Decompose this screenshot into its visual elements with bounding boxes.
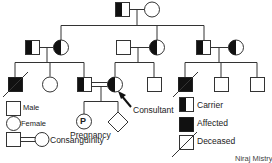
legend-male-label: Male <box>23 104 39 112</box>
gen3-male <box>251 78 265 92</box>
legend-consanguinity-female-icon <box>35 133 49 147</box>
gen2-middle-couple <box>115 40 165 78</box>
legend-female-icon <box>7 117 21 131</box>
gen3-male <box>148 78 162 92</box>
gen3-male <box>215 78 229 92</box>
legend-male-icon <box>7 102 21 116</box>
legend-deceased-label: Deceased <box>197 137 235 146</box>
gen2-left-couple <box>15 40 84 78</box>
gen2-male <box>117 41 131 55</box>
pregnancy-p-label: P <box>80 117 86 126</box>
gen1-couple <box>61 2 204 41</box>
gen3-female <box>43 77 58 92</box>
legend-affected-label: Affected <box>197 119 228 128</box>
gen2-right-couple <box>185 40 257 78</box>
legend-consanguinity-male-icon <box>7 133 21 147</box>
legend-carrier-label: Carrier <box>197 101 223 110</box>
legend-female-label: Female <box>21 120 46 128</box>
credit-label: Niraj Mistry <box>235 155 272 163</box>
legend-consanguinity-label: Consanguinity <box>50 136 104 145</box>
consultant-label: Consultant <box>133 106 174 115</box>
consultant-arrow-icon <box>118 91 131 107</box>
gen1-female <box>145 2 160 17</box>
unknown-sex-diamond <box>108 112 128 132</box>
